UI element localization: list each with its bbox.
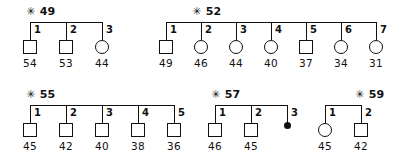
drop-line-57-1: [215, 105, 216, 123]
male-symbol-55-5: [167, 123, 181, 137]
drop-line-52-4: [271, 22, 272, 40]
male-symbol-55-2: [59, 123, 73, 137]
sibling-ordinal-49-3: 3: [106, 25, 113, 35]
drop-line-55-4: [138, 105, 139, 123]
age-label-49-2: 53: [52, 58, 80, 69]
age-label-59-2: 42: [347, 141, 375, 152]
sibling-ordinal-57-2: 2: [255, 108, 262, 118]
drop-line-57-2: [251, 105, 252, 123]
deceased-dot-symbol-57-3: [284, 122, 291, 129]
sibling-ordinal-52-3: 3: [240, 25, 247, 35]
drop-line-52-3: [236, 22, 237, 40]
family-label-55: ✳ 55: [26, 89, 56, 100]
female-symbol-52-6: [334, 40, 348, 54]
male-symbol-55-1: [23, 123, 37, 137]
male-symbol-55-4: [131, 123, 145, 137]
sibling-ordinal-59-1: 1: [329, 108, 336, 118]
family-label-59: ✳ 59: [355, 89, 385, 100]
drop-line-57-3: [287, 105, 288, 123]
drop-line-59-1: [325, 105, 326, 123]
sibling-ordinal-55-1: 1: [34, 108, 41, 118]
sibling-ordinal-59-2: 2: [365, 108, 372, 118]
drop-line-59-2: [361, 105, 362, 123]
age-label-52-1: 49: [152, 58, 180, 69]
sibling-ordinal-55-3: 3: [106, 108, 113, 118]
sibling-ordinal-52-2: 2: [205, 25, 212, 35]
drop-line-49-2: [66, 22, 67, 40]
drop-line-55-5: [174, 105, 175, 123]
sibling-ordinal-49-2: 2: [70, 25, 77, 35]
drop-line-55-3: [102, 105, 103, 123]
sibship-line-59: [325, 105, 361, 106]
age-label-55-2: 42: [52, 141, 80, 152]
drop-line-55-1: [30, 105, 31, 123]
age-label-52-3: 44: [222, 58, 250, 69]
age-label-57-2: 45: [237, 141, 265, 152]
age-label-59-1: 45: [311, 141, 339, 152]
female-symbol-49-3: [95, 40, 109, 54]
family-label-57: ✳ 57: [211, 89, 241, 100]
female-symbol-52-2: [194, 40, 208, 54]
age-label-55-4: 38: [124, 141, 152, 152]
sibling-ordinal-57-3: 3: [291, 108, 298, 118]
sibling-ordinal-55-5: 5: [178, 108, 185, 118]
age-label-55-3: 40: [88, 141, 116, 152]
sibling-ordinal-52-4: 4: [275, 25, 282, 35]
sibling-ordinal-52-1: 1: [170, 25, 177, 35]
male-symbol-57-2: [244, 123, 258, 137]
drop-line-52-5: [306, 22, 307, 40]
pedigree-chart: ✳ 49154253344✳ 52149246344440537634731✳ …: [0, 0, 401, 165]
sibling-ordinal-55-2: 2: [70, 108, 77, 118]
male-symbol-52-5: [299, 40, 313, 54]
female-symbol-59-1: [318, 123, 332, 137]
male-symbol-52-1: [159, 40, 173, 54]
drop-line-52-1: [166, 22, 167, 40]
age-label-52-5: 37: [292, 58, 320, 69]
female-symbol-52-4: [264, 40, 278, 54]
family-label-49: ✳ 49: [26, 6, 56, 17]
age-label-49-3: 44: [88, 58, 116, 69]
drop-line-49-1: [30, 22, 31, 40]
drop-line-55-2: [66, 105, 67, 123]
age-label-52-6: 34: [327, 58, 355, 69]
male-symbol-55-3: [95, 123, 109, 137]
male-symbol-49-1: [23, 40, 37, 54]
sibling-ordinal-52-6: 6: [345, 25, 352, 35]
drop-line-52-2: [201, 22, 202, 40]
male-symbol-57-1: [208, 123, 222, 137]
age-label-52-2: 46: [187, 58, 215, 69]
female-symbol-52-3: [229, 40, 243, 54]
drop-line-52-6: [341, 22, 342, 40]
female-symbol-52-7: [369, 40, 383, 54]
age-label-52-7: 31: [362, 58, 390, 69]
age-label-52-4: 40: [257, 58, 285, 69]
male-symbol-49-2: [59, 40, 73, 54]
age-label-49-1: 54: [16, 58, 44, 69]
age-label-55-5: 36: [160, 141, 188, 152]
drop-line-52-7: [376, 22, 377, 40]
age-label-55-1: 45: [16, 141, 44, 152]
male-symbol-59-2: [354, 123, 368, 137]
sibling-ordinal-52-7: 7: [380, 25, 387, 35]
sibling-ordinal-55-4: 4: [142, 108, 149, 118]
age-label-57-1: 46: [201, 141, 229, 152]
sibling-ordinal-49-1: 1: [34, 25, 41, 35]
drop-line-49-3: [102, 22, 103, 40]
family-label-52: ✳ 52: [192, 6, 222, 17]
sibling-ordinal-57-1: 1: [219, 108, 226, 118]
sibling-ordinal-52-5: 5: [310, 25, 317, 35]
